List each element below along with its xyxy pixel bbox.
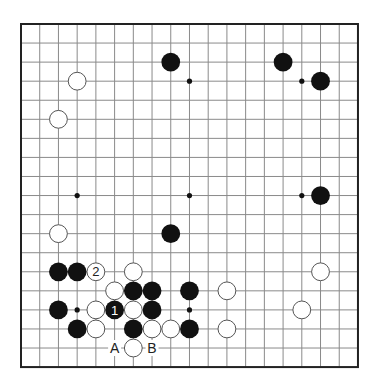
black-stone [68,320,87,339]
white-stone [312,263,330,281]
star-point [75,307,80,312]
white-stone [106,282,124,300]
black-stone: 1 [105,301,124,320]
point-letter-label: A [110,340,120,356]
black-stone [180,281,199,300]
white-stone [143,320,161,338]
white-stone [124,339,142,357]
black-stone [143,301,162,320]
star-point [187,193,192,198]
black-stone [49,262,68,281]
move-number-label: 1 [111,303,118,318]
white-stone [50,110,68,128]
white-stone: 2 [87,263,105,281]
black-stone [49,301,68,320]
white-stone [218,282,236,300]
star-point [75,193,80,198]
white-stone [50,225,68,243]
star-point [187,307,192,312]
white-stone [124,301,142,319]
star-point [299,79,304,84]
white-stone [87,320,105,338]
star-point [187,79,192,84]
black-stone [161,53,180,72]
point-letter-label: B [147,340,156,356]
go-board[interactable]: 12 AB [0,0,381,390]
black-stone [68,262,87,281]
black-stone [180,320,199,339]
black-stone [311,186,330,205]
white-stone [218,320,236,338]
black-stone [161,224,180,243]
white-stone [68,72,86,90]
move-number-label: 2 [92,264,99,279]
black-stone [311,72,330,91]
white-stone [293,301,311,319]
star-point [299,193,304,198]
white-stone [162,320,180,338]
white-stone [87,301,105,319]
black-stone [274,53,293,72]
black-stone [124,281,143,300]
black-stone [124,320,143,339]
go-board-diagram: 12 AB [0,0,381,390]
white-stone [124,263,142,281]
black-stone [143,281,162,300]
